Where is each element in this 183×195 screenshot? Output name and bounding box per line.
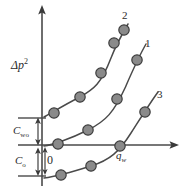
series-curve-3 — [44, 92, 158, 180]
y-axis-label-exponent: 2 — [24, 57, 28, 66]
segment-label-co-subscript: o — [22, 161, 26, 169]
curve-label-3: 3 — [157, 89, 163, 100]
data-point — [49, 108, 59, 118]
y-axis-label: Δp2 — [11, 58, 28, 71]
data-point — [109, 38, 119, 48]
data-point — [119, 25, 129, 35]
curve-3-path — [44, 92, 158, 178]
data-point — [75, 92, 85, 102]
segment-label-cwo: Cwo — [13, 125, 29, 139]
plot-canvas — [0, 0, 183, 195]
data-point — [56, 170, 66, 180]
data-point — [140, 107, 150, 117]
curve-1-path — [44, 44, 146, 146]
x-axis-label-subscript: w — [122, 156, 127, 164]
curve-label-2: 2 — [122, 10, 128, 21]
data-point — [112, 94, 122, 104]
data-point — [96, 68, 106, 78]
data-point — [53, 139, 63, 149]
figure-container: Δp2 qw Cwo Co 0 2 1 3 — [0, 0, 183, 195]
origin-label: 0 — [47, 154, 53, 166]
segment-label-co: Co — [15, 155, 26, 169]
data-point — [83, 125, 93, 135]
x-axis-label: qw — [116, 150, 126, 164]
data-point — [86, 161, 96, 171]
y-axis-label-base: Δp — [11, 58, 24, 72]
curve-label-1: 1 — [145, 38, 151, 49]
data-point — [132, 55, 142, 65]
segment-label-cwo-subscript: wo — [20, 131, 29, 139]
